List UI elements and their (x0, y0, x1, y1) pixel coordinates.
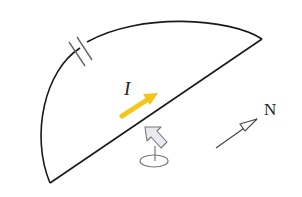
current-label: I (124, 78, 130, 100)
north-arrow-icon (216, 119, 257, 148)
north-label: N (264, 100, 276, 120)
diagram-canvas (0, 0, 302, 197)
compass-needle-icon (140, 127, 168, 167)
